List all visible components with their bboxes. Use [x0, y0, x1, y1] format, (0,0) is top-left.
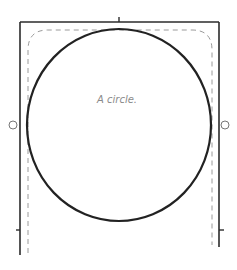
diagram-canvas: A circle. — [0, 0, 237, 270]
right-resize-handle[interactable] — [221, 121, 229, 129]
left-resize-handle[interactable] — [9, 121, 17, 129]
circle-label: A circle. — [96, 94, 137, 105]
circle-shape[interactable] — [27, 29, 211, 221]
dashed-bounding-box — [28, 30, 212, 253]
